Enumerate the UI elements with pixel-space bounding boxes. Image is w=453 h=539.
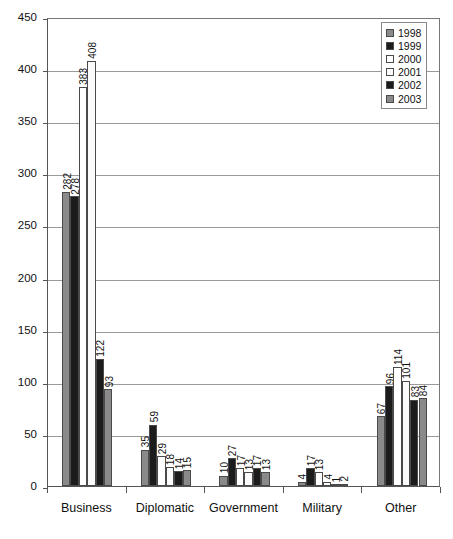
legend-item[interactable]: 2000 (386, 52, 421, 65)
bar-value-label: 15 (183, 457, 193, 468)
y-axis-tick-label: 350 (0, 115, 37, 127)
bar[interactable] (377, 416, 385, 486)
legend-item-label: 1999 (398, 40, 421, 52)
x-axis: BusinessDiplomaticGovernmentMilitaryOthe… (47, 487, 440, 539)
chart-legend: 199819992000200120022003 (381, 22, 427, 109)
y-axis-tick-label: 200 (0, 272, 37, 284)
legend-swatch-icon (386, 55, 394, 63)
legend-item[interactable]: 1999 (386, 39, 421, 52)
legend-item-label: 2000 (398, 53, 421, 65)
x-axis-tick (47, 487, 48, 493)
legend-swatch-icon (386, 68, 394, 76)
bar[interactable] (141, 450, 149, 486)
x-axis-tick (361, 487, 362, 493)
legend-item-label: 2001 (398, 66, 421, 78)
legend-item-label: 2003 (398, 93, 421, 105)
bar-group: 28227838340812293 (62, 19, 112, 486)
bar-value-label: 13 (315, 459, 325, 470)
bar-group: 355929181415 (141, 19, 191, 486)
x-axis-category-label: Business (61, 501, 112, 515)
bar[interactable] (166, 467, 174, 486)
bar[interactable] (410, 400, 418, 487)
bar-value-label: 408 (88, 42, 98, 59)
x-axis-tick (440, 487, 441, 493)
y-axis-tick-label: 50 (0, 428, 37, 440)
bar-value-label: 84 (419, 385, 429, 396)
bar[interactable] (70, 196, 78, 486)
bar-value-label: 93 (105, 376, 115, 387)
bar[interactable] (306, 468, 314, 486)
legend-item-label: 1998 (398, 27, 421, 39)
y-axis-tick-label: 450 (0, 11, 37, 23)
bar[interactable] (385, 386, 393, 486)
legend-item[interactable]: 2003 (386, 92, 421, 105)
x-axis-tick (204, 487, 205, 493)
x-axis-tick (126, 487, 127, 493)
bar[interactable] (253, 468, 261, 486)
bar[interactable] (149, 425, 157, 486)
legend-item[interactable]: 2002 (386, 79, 421, 92)
y-axis-tick-label: 0 (0, 480, 37, 492)
bar[interactable] (315, 472, 323, 486)
legend-swatch-icon (386, 81, 394, 89)
legend-item-label: 2002 (398, 79, 421, 91)
bar[interactable] (340, 484, 348, 486)
y-axis-tick-label: 400 (0, 63, 37, 75)
bar[interactable] (244, 472, 252, 486)
bar[interactable] (419, 398, 427, 486)
chart-container: 450400350300250200150100500 282278383408… (0, 0, 453, 539)
bar-group: 41713412 (298, 19, 348, 486)
bar-value-label: 2 (340, 476, 350, 482)
bar-value-label: 13 (262, 459, 272, 470)
x-axis-category-label: Government (209, 501, 278, 515)
bar[interactable] (87, 61, 95, 486)
bar[interactable] (79, 87, 87, 486)
x-axis-tick (283, 487, 284, 493)
y-axis: 450400350300250200150100500 (0, 0, 47, 539)
bar[interactable] (219, 476, 227, 486)
bar-value-label: 59 (150, 411, 160, 422)
y-axis-tick-label: 250 (0, 219, 37, 231)
legend-swatch-icon (386, 42, 394, 50)
bar[interactable] (331, 484, 339, 486)
bar[interactable] (298, 482, 306, 486)
legend-swatch-icon (386, 29, 394, 37)
x-axis-category-label: Military (302, 501, 342, 515)
bar[interactable] (393, 367, 401, 486)
bar[interactable] (236, 468, 244, 486)
bar[interactable] (183, 470, 191, 486)
bar[interactable] (104, 389, 112, 486)
bar[interactable] (402, 381, 410, 486)
y-axis-tick-label: 150 (0, 324, 37, 336)
bar-group: 102717131713 (219, 19, 269, 486)
bar[interactable] (96, 359, 104, 486)
bar[interactable] (62, 192, 70, 486)
x-axis-category-label: Diplomatic (136, 501, 194, 515)
x-axis-category-label: Other (385, 501, 416, 515)
bar-value-label: 29 (158, 443, 168, 454)
bar-value-label: 122 (96, 340, 106, 357)
bar[interactable] (228, 458, 236, 486)
bar[interactable] (261, 472, 269, 486)
legend-swatch-icon (386, 95, 394, 103)
bar[interactable] (174, 471, 182, 486)
y-axis-tick-label: 300 (0, 167, 37, 179)
legend-item[interactable]: 1998 (386, 26, 421, 39)
bar-value-label: 101 (402, 362, 412, 379)
legend-item[interactable]: 2001 (386, 66, 421, 79)
y-axis-tick-label: 100 (0, 376, 37, 388)
